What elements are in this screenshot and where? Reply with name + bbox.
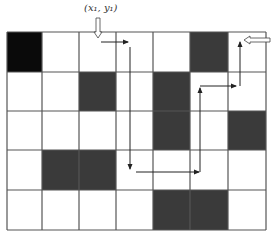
filled-cell (153, 111, 190, 150)
filled-cell (153, 190, 190, 230)
filled-cell (42, 150, 79, 190)
filled-cell (190, 190, 228, 230)
start-arrow-icon (94, 18, 102, 38)
filled-cell (7, 32, 42, 72)
filled-cell (79, 72, 116, 111)
grid-diagram (0, 0, 275, 236)
filled-cell (228, 111, 266, 150)
filled-cell (190, 32, 228, 72)
filled-cell (153, 72, 190, 111)
filled-cell (79, 150, 116, 190)
